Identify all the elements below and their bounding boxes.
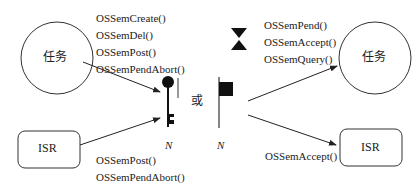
call-label: OSSemAccept() bbox=[265, 150, 337, 163]
right-task-calls: OSSemPend() OSSemAccept() OSSemQuery() bbox=[264, 19, 336, 66]
call-label: OSSemPost() bbox=[96, 154, 185, 167]
right-isr-label: ISR bbox=[361, 141, 380, 154]
left-isr-label: ISR bbox=[38, 142, 57, 155]
diagram-canvas bbox=[0, 0, 416, 191]
call-label: OSSemCreate() bbox=[96, 12, 185, 25]
hourglass-icon bbox=[231, 28, 247, 50]
call-label: OSSemAccept() bbox=[264, 36, 336, 49]
right-isr-calls: OSSemAccept() bbox=[265, 150, 337, 163]
call-label: OSSemPend() bbox=[264, 19, 336, 32]
left-isr-calls: OSSemPost() OSSemPendAbort() bbox=[96, 154, 185, 184]
call-label: OSSemPost() bbox=[96, 46, 185, 59]
call-label: OSSemQuery() bbox=[264, 53, 336, 66]
left-task-label: 任务 bbox=[43, 51, 67, 64]
right-task-label: 任务 bbox=[362, 51, 386, 64]
key-count-label: N bbox=[165, 139, 172, 151]
key-icon bbox=[162, 76, 178, 127]
flag-count-label: N bbox=[217, 139, 224, 151]
call-label: OSSemDel() bbox=[96, 29, 185, 42]
flag-icon bbox=[219, 77, 233, 128]
or-label: 或 bbox=[191, 95, 203, 108]
call-label: OSSemPendAbort() bbox=[96, 63, 185, 76]
call-label: OSSemPendAbort() bbox=[96, 171, 185, 184]
left-task-calls: OSSemCreate() OSSemDel() OSSemPost() OSS… bbox=[96, 12, 185, 76]
